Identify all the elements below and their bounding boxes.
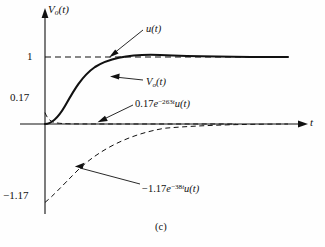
y-tick-label-neg-1-17: −1.17 bbox=[3, 190, 28, 201]
fast-exp-coefficient: 0.17 bbox=[135, 98, 153, 109]
annotation-arrow-output-voltage bbox=[110, 74, 143, 80]
curve-label-slow-exponential: −1.17e−38tu(t) bbox=[142, 184, 199, 195]
x-axis-title: t bbox=[310, 117, 313, 128]
y-axis-title-main: V bbox=[48, 3, 55, 15]
curve-label-fast-exponential: 0.17e−263tu(t) bbox=[135, 99, 190, 110]
curve-label-step: u(t) bbox=[146, 24, 161, 35]
y-axis-title: Vo(t) bbox=[48, 4, 69, 16]
slow-exp-coefficient: −1.17 bbox=[142, 183, 166, 194]
y-tick-label-0-17: 0.17 bbox=[10, 92, 29, 103]
curve-label-output-arg: (t) bbox=[156, 76, 166, 87]
slow-exp-exponent-prefix: −38 bbox=[171, 183, 182, 191]
figure-caption: (c) bbox=[155, 222, 167, 233]
curve-label-output: Vo(t) bbox=[146, 77, 166, 89]
slow-exp-exponent: −38t bbox=[171, 183, 184, 191]
slow-exp-multiplier-arg: (t) bbox=[189, 183, 199, 194]
fast-exp-multiplier-arg: (t) bbox=[180, 98, 190, 109]
fast-exp-exponent: −263t bbox=[158, 98, 175, 106]
figure-container: Vo(t) t 1 0.17 −1.17 u(t) Vo(t) 0.17e−26… bbox=[0, 0, 325, 247]
fast-exp-exponent-prefix: −263 bbox=[158, 98, 173, 106]
annotation-arrow-u-of-t bbox=[109, 30, 143, 58]
series-fast-exponential bbox=[45, 113, 236, 124]
annotation-arrow-fast-exponential bbox=[98, 105, 134, 122]
y-axis-title-arg: (t) bbox=[58, 3, 68, 15]
plot-canvas bbox=[0, 0, 325, 247]
y-axis bbox=[42, 8, 49, 214]
annotation-arrow-slow-exponential bbox=[75, 163, 140, 184]
y-tick-label-1: 1 bbox=[27, 51, 33, 62]
curve-label-step-arg: (t) bbox=[151, 23, 161, 34]
series-output-voltage bbox=[45, 55, 288, 124]
